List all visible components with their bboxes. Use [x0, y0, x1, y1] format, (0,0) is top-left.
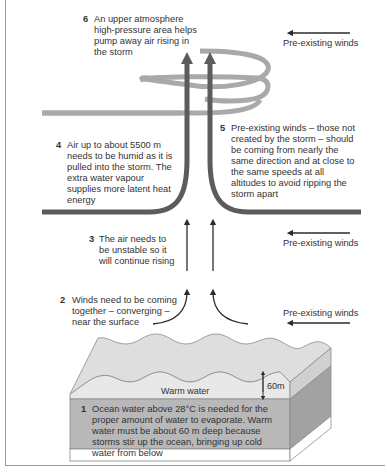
step-4-text: Air up to about 5500 m needs to be humid… — [67, 140, 177, 206]
step-6-text: An upper atmosphere high-pressure area h… — [94, 14, 204, 58]
step-5-number: 5 — [220, 123, 225, 134]
step-3-text: The air needs to be unstable so it will … — [99, 234, 179, 267]
step-2-text: Winds need to be coming together – conve… — [72, 295, 177, 328]
pre-existing-winds-label-lower: Pre-existing winds — [283, 308, 358, 319]
depth-60m-label: 60m — [267, 381, 285, 391]
step-2-number: 2 — [60, 295, 65, 306]
upper-outflow-spiral — [42, 51, 268, 113]
step-3-number: 3 — [89, 234, 94, 245]
step-5-text: Pre-existing winds – those not created b… — [231, 123, 356, 200]
pre-existing-winds-label-upper: Pre-existing winds — [283, 38, 358, 49]
warm-water-label: Warm water — [161, 386, 209, 396]
rising-air-arrows — [187, 222, 213, 271]
step-1-text: Ocean water above 28°C is needed for the… — [92, 404, 287, 459]
up-arrowhead-right — [204, 52, 216, 64]
step-1-number: 1 — [81, 404, 86, 415]
hurricane-formation-diagram — [0, 0, 387, 474]
step-6-number: 6 — [83, 14, 88, 25]
pre-existing-winds-label-middle: Pre-existing winds — [283, 238, 358, 249]
step-4-number: 4 — [56, 140, 61, 151]
